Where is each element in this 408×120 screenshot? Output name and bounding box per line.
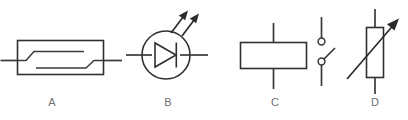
symbol-b-emission-arrow-1-shaft: [171, 17, 184, 34]
symbol-a-caption: A: [37, 96, 67, 108]
symbol-b-emission-arrow-1: [171, 11, 188, 34]
symbol-b-emission-arrow-2-shaft: [182, 20, 195, 37]
figure-root: A B C D: [0, 0, 408, 120]
symbol-c-caption: C: [260, 96, 290, 108]
symbol-c-contact-upper-terminal: [318, 38, 325, 45]
symbol-d-variability-arrow-head: [387, 19, 399, 31]
symbol-a-enclosure: [18, 41, 104, 75]
symbol-a-thermostat: [1, 41, 123, 75]
symbol-c-switch-blade: [324, 48, 336, 60]
symbol-d-caption: D: [360, 96, 390, 108]
symbol-b-emission-arrow-2-head: [190, 14, 199, 24]
symbol-b-led: [126, 11, 208, 80]
symbol-b-emission-arrow-1-head: [179, 11, 188, 21]
symbol-b-caption: B: [153, 96, 183, 108]
symbol-c-coil-body: [241, 43, 307, 69]
symbol-c-relay: [241, 17, 336, 89]
symbol-d-variable-resistor: [347, 9, 399, 94]
